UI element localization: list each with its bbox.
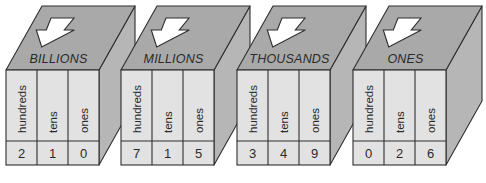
column-label: ones (193, 108, 205, 133)
column-label: hundreds (363, 85, 375, 133)
column-label: hundreds (131, 85, 143, 133)
digit-value: 0 (365, 146, 372, 161)
column-label: hundreds (16, 85, 28, 133)
digit-value: 0 (80, 146, 87, 161)
place-value-diagram: BILLIONShundreds2tens1ones0MILLIONShundr… (0, 0, 486, 183)
column-label: tens (47, 111, 59, 133)
digit-value: 3 (249, 146, 256, 161)
period-label: MILLIONS (144, 52, 204, 66)
digit-value: 1 (49, 146, 56, 161)
column-label: ones (309, 108, 321, 133)
column-label: hundreds (247, 85, 259, 133)
digit-value: 4 (280, 146, 287, 161)
period-label: ONES (387, 52, 424, 66)
period-box-ones: ONEShundreds0tens2ones6 (353, 6, 482, 165)
digit-value: 2 (18, 146, 25, 161)
period-box-thousands: THOUSANDShundreds3tens4ones9 (237, 6, 366, 165)
period-box-billions: BILLIONShundreds2tens1ones0 (6, 6, 135, 165)
column-label: ones (425, 108, 437, 133)
digit-value: 6 (427, 146, 434, 161)
digit-value: 9 (311, 146, 318, 161)
column-label: tens (162, 111, 174, 133)
period-label: THOUSANDS (249, 52, 330, 66)
column-label: tens (394, 111, 406, 133)
column-label: tens (278, 111, 290, 133)
column-label: ones (78, 108, 90, 133)
digit-value: 1 (164, 146, 171, 161)
period-label: BILLIONS (30, 52, 88, 66)
digit-value: 5 (195, 146, 202, 161)
digit-value: 7 (133, 146, 140, 161)
period-box-millions: MILLIONShundreds7tens1ones5 (121, 6, 250, 165)
digit-value: 2 (396, 146, 403, 161)
